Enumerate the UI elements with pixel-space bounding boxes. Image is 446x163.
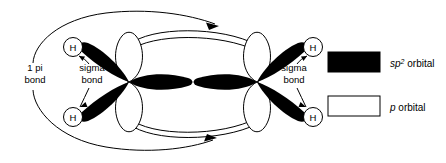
sigma-bond-left-line1: sigma	[79, 62, 105, 73]
legend-item-p-orbital: p orbital	[328, 96, 426, 116]
sigma-bond-right-line2: bond	[283, 74, 304, 85]
sigma-bond-arrow-left-down	[80, 88, 89, 107]
h-label-top-left: H	[70, 42, 77, 53]
pi-bond-label: 1 pi bond	[24, 62, 45, 85]
pi-bond-line1: 1 pi	[27, 62, 42, 73]
sigma-bond-right-line1: sigma	[281, 62, 307, 73]
pi-overlap-bottom	[129, 118, 257, 138]
pi-overlap-top	[129, 31, 257, 51]
h-label-bottom-left: H	[70, 112, 77, 123]
legend-item-sp2-orbital: sp2 orbital	[328, 52, 434, 72]
legend-label-sp2: sp2 orbital	[390, 58, 434, 70]
legend-symbol-sp2: sp	[390, 58, 401, 69]
legend-suffix-p: orbital	[396, 102, 426, 113]
ethylene-orbital-diagram: H H H H sigma bond sigma bo	[0, 0, 446, 163]
sigma-bond-left-line2: bond	[81, 74, 102, 85]
hydrogen-bottom-left: H	[64, 108, 83, 127]
legend: sp2 orbital p orbital	[328, 52, 434, 116]
sigma-bond-label-right: sigma bond	[281, 62, 307, 85]
legend-swatch-p	[328, 96, 380, 116]
legend-suffix-sp2: orbital	[404, 58, 434, 69]
diagram-canvas: H H H H sigma bond sigma bo	[0, 0, 446, 163]
h-label-bottom-right: H	[310, 112, 317, 123]
hydrogen-top-left: H	[64, 38, 83, 57]
sigma-bond-label-left: sigma bond	[79, 62, 105, 85]
legend-swatch-sp2	[328, 52, 380, 72]
h-label-top-right: H	[310, 42, 317, 53]
pi-bond-line2: bond	[24, 74, 45, 85]
hydrogen-bottom-right: H	[304, 108, 323, 127]
sigma-bond-arrow-right-down	[297, 88, 306, 107]
hydrogen-top-right: H	[304, 38, 323, 57]
legend-label-p: p orbital	[389, 102, 426, 113]
